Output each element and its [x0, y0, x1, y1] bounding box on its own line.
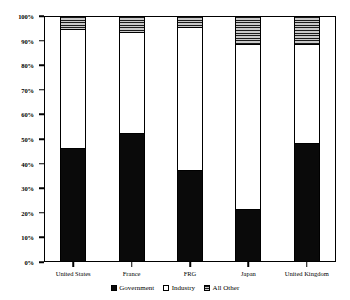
bar-segment-allother: [178, 17, 202, 27]
bars-layer: [44, 16, 336, 262]
y-axis-tick-label: 0%: [24, 259, 34, 266]
bar-segment-government: [295, 144, 319, 261]
legend-item-industry[interactable]: Industry: [163, 284, 195, 292]
y-axis-tick-label: 70%: [21, 86, 34, 93]
x-axis-category-label: Japan: [241, 270, 256, 277]
bar-group: [294, 16, 320, 262]
x-axis-category-label: FRG: [184, 270, 197, 277]
bar-segment-allother: [61, 17, 85, 29]
y-axis: 0%10%20%30%40%50%60%70%80%90%100%: [0, 0, 44, 300]
x-axis-category-label: France: [123, 270, 141, 277]
bar-segment-industry: [120, 32, 144, 135]
y-axis-tick-label: 10%: [21, 234, 34, 241]
legend-label: Government: [119, 284, 154, 292]
x-axis-category-label: United Kingdom: [285, 270, 329, 277]
legend-label: All Other: [213, 284, 240, 292]
stacked-bar: [60, 16, 86, 262]
bar-group: [235, 16, 261, 262]
y-axis-tick-label: 100%: [18, 13, 34, 20]
bar-segment-allother: [295, 17, 319, 44]
x-axis-tick-mark: [248, 262, 250, 267]
legend-swatch-government-icon: [111, 285, 117, 291]
x-axis-tick-mark: [131, 262, 133, 267]
legend-item-government[interactable]: Government: [111, 284, 155, 292]
y-axis-tick-label: 90%: [21, 37, 34, 44]
y-axis-tick-label: 80%: [21, 62, 34, 69]
bar-segment-allother: [120, 17, 144, 32]
bar-segment-allother: [236, 17, 260, 44]
x-axis-tick-mark: [306, 262, 308, 267]
bar-segment-government: [236, 210, 260, 261]
bar-group: [60, 16, 86, 262]
stacked-bar: [235, 16, 261, 262]
x-axis-tick-mark: [72, 262, 74, 267]
x-axis-category-label: United States: [56, 270, 91, 277]
bar-segment-government: [120, 134, 144, 261]
bar-segment-government: [61, 149, 85, 261]
bar-group: [177, 16, 203, 262]
stacked-bar: [119, 16, 145, 262]
y-axis-tick-label: 40%: [21, 160, 34, 167]
y-axis-tick-label: 60%: [21, 111, 34, 118]
legend-label: Industry: [172, 284, 195, 292]
y-axis-tick-label: 50%: [21, 136, 34, 143]
stacked-bar-chart: 0%10%20%30%40%50%60%70%80%90%100% United…: [0, 0, 350, 300]
legend-item-allother[interactable]: All Other: [204, 284, 239, 292]
stacked-bar: [177, 16, 203, 262]
legend-swatch-allother-icon: [204, 285, 210, 291]
y-axis-tick-label: 20%: [21, 209, 34, 216]
y-axis-tick-label: 30%: [21, 185, 34, 192]
chart-legend: GovernmentIndustryAll Other: [0, 284, 350, 292]
stacked-bar: [294, 16, 320, 262]
bar-segment-industry: [295, 44, 319, 144]
bar-segment-government: [178, 171, 202, 261]
x-axis-tick-mark: [189, 262, 191, 267]
bar-segment-industry: [236, 44, 260, 210]
bar-segment-industry: [178, 27, 202, 171]
bar-group: [119, 16, 145, 262]
bar-segment-industry: [61, 29, 85, 149]
legend-swatch-industry-icon: [163, 285, 169, 291]
